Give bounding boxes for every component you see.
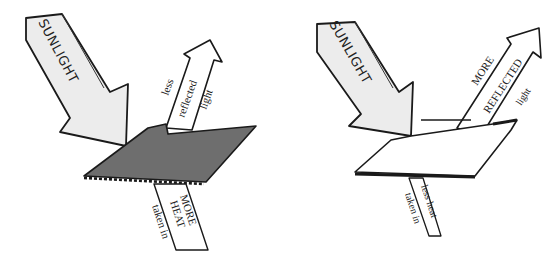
reflected-label-line1: less	[159, 77, 176, 97]
light-surface-panel: SUNLIGHT MORE REFLECTED light less heat …	[275, 0, 550, 276]
absorbed-heat-arrow: MORE HEAT taken in	[150, 184, 208, 250]
dark-surface-illustration: SUNLIGHT less reflected light MORE HEAT …	[0, 0, 275, 276]
light-surface-illustration: SUNLIGHT MORE REFLECTED light less heat …	[275, 0, 550, 276]
sunlight-arrow: SUNLIGHT	[26, 14, 128, 146]
reflected-light-arrow: MORE REFLECTED light	[421, 28, 541, 136]
absorbed-heat-arrow: less heat taken in	[403, 178, 441, 236]
reflected-light-arrow: less reflected light	[159, 40, 222, 130]
sunlight-arrow: SUNLIGHT	[317, 18, 413, 136]
dark-surface-panel: SUNLIGHT less reflected light MORE HEAT …	[0, 0, 275, 276]
reflected-label-line3: light	[513, 86, 532, 108]
